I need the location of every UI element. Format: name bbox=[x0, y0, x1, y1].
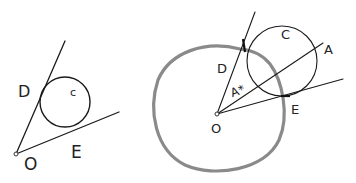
right-label-a-star: A* bbox=[229, 82, 247, 100]
left-figure: D c O E bbox=[14, 41, 119, 174]
right-figure: D A* C A E O bbox=[154, 12, 343, 171]
left-label-o: O bbox=[24, 154, 37, 174]
left-label-c: c bbox=[70, 86, 76, 99]
right-point-o bbox=[215, 112, 219, 116]
left-point-o bbox=[14, 152, 18, 156]
right-label-o: O bbox=[211, 121, 221, 136]
right-label-c: C bbox=[281, 27, 290, 42]
right-label-d: D bbox=[217, 61, 227, 76]
right-label-a: A bbox=[324, 42, 333, 57]
right-label-e: E bbox=[291, 102, 299, 117]
left-label-d: D bbox=[18, 82, 30, 101]
diagram-canvas: D c O E D A* C A E O bbox=[0, 0, 356, 183]
left-label-e: E bbox=[71, 142, 82, 162]
right-ray-a bbox=[217, 43, 323, 114]
left-circle-c bbox=[40, 77, 90, 127]
